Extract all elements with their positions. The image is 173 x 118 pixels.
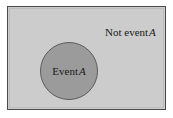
not-event-a-label-text: Not event — [105, 26, 148, 38]
event-a-circle: EventA — [40, 42, 98, 100]
not-event-a-label-variable: A — [148, 26, 156, 38]
venn-diagram-canvas: Not eventA EventA — [0, 0, 173, 118]
event-a-label-variable: A — [78, 66, 86, 77]
event-a-label: EventA — [41, 43, 97, 99]
not-event-a-label: Not eventA — [105, 26, 156, 39]
event-a-label-text: Event — [52, 66, 78, 77]
sample-space-rectangle: Not eventA EventA — [7, 6, 166, 110]
